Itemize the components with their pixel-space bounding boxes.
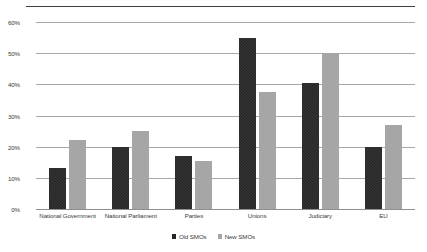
y-axis-tick-label: 40% (0, 81, 20, 88)
x-axis-category-label: Parties (162, 212, 225, 226)
bar-old-smos[interactable] (365, 147, 382, 209)
bar-old-smos[interactable] (112, 147, 129, 209)
bar-old-smos[interactable] (175, 156, 192, 209)
legend-label: New SMOs (225, 233, 256, 240)
y-axis-tick-label: 50% (0, 50, 20, 57)
bar-new-smos[interactable] (195, 161, 212, 209)
bar-old-smos[interactable] (239, 38, 256, 209)
y-axis-tick-label: 20% (0, 144, 20, 151)
bar-group (352, 22, 415, 209)
x-axis-category-label: Judiciary (289, 212, 352, 226)
legend-swatch-icon (218, 234, 223, 239)
bar-group (99, 22, 162, 209)
x-axis-line (36, 209, 415, 210)
x-axis-category-label: National Parliament (99, 212, 162, 226)
x-axis-category-label: EU (352, 212, 415, 226)
chart-legend: Old SMOsNew SMOs (0, 233, 427, 240)
legend-swatch-icon (172, 234, 177, 239)
y-axis-tick-label: 30% (0, 113, 20, 120)
bar-chart: 60%50%40%30%20%10%0% National Government… (0, 0, 427, 252)
y-axis-tick-label: 60% (0, 19, 20, 26)
legend-item[interactable]: Old SMOs (172, 233, 207, 240)
legend-label: Old SMOs (179, 233, 207, 240)
bar-group (162, 22, 225, 209)
bar-group (36, 22, 99, 209)
x-axis-category-label: National Government (36, 212, 99, 226)
bar-new-smos[interactable] (259, 92, 276, 209)
plot-area: 60%50%40%30%20%10%0% (36, 22, 415, 209)
bar-group (289, 22, 352, 209)
y-axis-tick-label: 10% (0, 175, 20, 182)
legend-item[interactable]: New SMOs (218, 233, 256, 240)
bar-new-smos[interactable] (322, 53, 339, 209)
bar-groups (36, 22, 415, 209)
x-axis-labels: National GovernmentNational ParliamentPa… (36, 212, 415, 226)
chart-top-border (26, 6, 415, 7)
bar-new-smos[interactable] (385, 125, 402, 209)
bar-group (226, 22, 289, 209)
bar-old-smos[interactable] (302, 83, 319, 209)
bar-new-smos[interactable] (132, 131, 149, 209)
bar-new-smos[interactable] (69, 140, 86, 209)
bar-old-smos[interactable] (49, 168, 66, 209)
x-axis-category-label: Unions (226, 212, 289, 226)
y-axis-tick-label: 0% (0, 206, 20, 213)
